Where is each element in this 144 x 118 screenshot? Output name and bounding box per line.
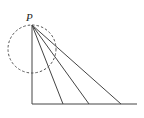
ray-3 <box>32 25 121 104</box>
ray-2 <box>32 25 89 104</box>
ray-1 <box>32 25 63 104</box>
geometry-diagram: P <box>0 0 144 118</box>
point-p-label: P <box>25 11 33 23</box>
